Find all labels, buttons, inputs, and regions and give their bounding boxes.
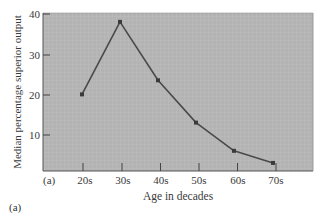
x-tick-label: 20s	[77, 174, 92, 186]
data-point-marker	[156, 78, 160, 82]
line-chart: 40 30 20 10 20s 30s 40s 50s 60s 70s (a) …	[0, 0, 329, 217]
data-point-marker	[194, 121, 198, 125]
y-tick-label: 10	[29, 129, 41, 141]
data-point-marker	[80, 92, 84, 96]
corner-label: (a)	[43, 174, 56, 187]
data-point-marker	[118, 20, 122, 24]
x-tick-label: 40s	[153, 174, 168, 186]
x-axis-title: Age in decades	[143, 190, 214, 203]
data-point-marker	[232, 149, 236, 153]
y-tick-label: 30	[29, 49, 41, 61]
x-tick-label: 70s	[268, 174, 283, 186]
y-tick-label: 20	[29, 89, 41, 101]
y-axis-title: Median percentage superior output	[11, 15, 23, 169]
x-tick-label: 60s	[230, 174, 245, 186]
x-tick-label: 50s	[191, 174, 206, 186]
panel-label: (a)	[9, 201, 21, 213]
x-tick-label: 30s	[115, 174, 130, 186]
y-tick-label: 40	[29, 8, 41, 20]
data-point-marker	[271, 161, 275, 165]
